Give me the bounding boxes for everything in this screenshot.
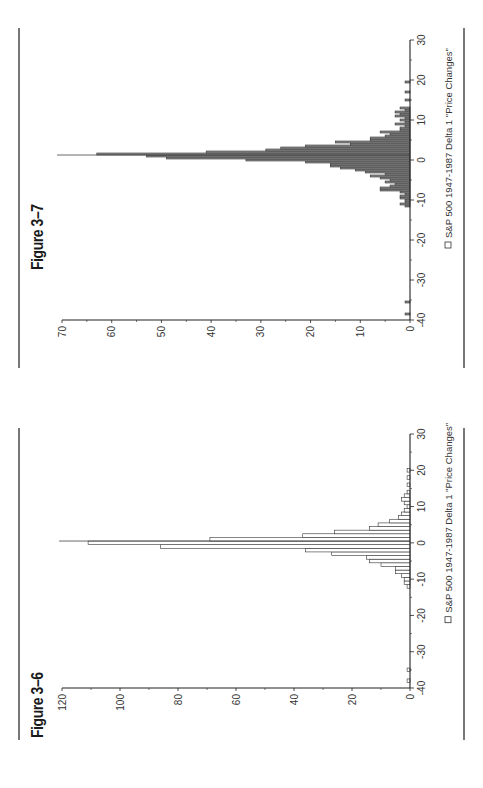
histogram-bar [405,301,410,303]
category-tick-label: -10 [416,192,427,207]
value-tick-label: 20 [305,326,316,338]
category-tick-label: 10 [416,114,427,126]
bottom-rule-fig-3-7 [463,28,465,368]
value-tick-label: 40 [206,326,217,338]
category-tick-label: -20 [416,232,427,247]
value-tick-label: 30 [255,326,266,338]
value-tick-label: 10 [355,326,366,338]
category-tick-label: 30 [416,34,427,46]
legend-label: S&P 500 1947-1987 Delta 1 "Price Changes… [443,48,454,238]
histogram-bar [405,313,410,315]
value-tick-label: 50 [156,326,167,338]
histogram-figure-3-7: -40-30-20-100102030010203040506070S&P 50… [0,0,483,788]
category-tick-label: -40 [416,312,427,327]
category-tick-label: -30 [416,272,427,287]
histogram-bar [405,91,410,93]
category-tick-label: 20 [416,74,427,86]
category-tick-label: 0 [416,157,427,163]
histogram-bar [400,107,410,109]
chart-legend: S&P 500 1947-1987 Delta 1 "Price Changes… [443,48,454,248]
histogram-bars [97,81,410,315]
value-tick-label: 0 [405,326,416,332]
value-tick-label: 70 [57,326,68,338]
legend-swatch-icon [445,242,451,248]
value-tick-label: 60 [106,326,117,338]
histogram-bar [405,81,410,83]
histogram-bar [405,99,410,101]
rotated-book-page: Figure 3–6 -40-30-20-1001020300204060801… [0,0,483,788]
